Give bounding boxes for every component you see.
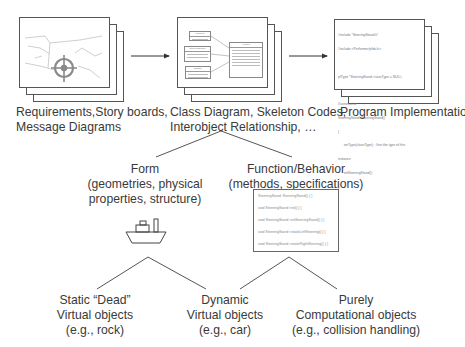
method-signature: void SteeringStand::rotateLeftSteering()… (254, 226, 338, 238)
caption-line: Program Implementation (340, 105, 465, 120)
leaf-line: Dynamic (187, 293, 263, 308)
function-title: Function/Behavior (229, 162, 364, 177)
form-title: Form (87, 162, 202, 177)
class-diagram-caption: Class Diagram, Skeleton Codes, Interobje… (170, 105, 346, 135)
caption-line: Class Diagram, Skeleton Codes, (170, 105, 346, 120)
method-signature: void SteeringStand::initSteeringStand() … (254, 214, 338, 226)
leaf-line: Static “Dead” (57, 293, 133, 308)
form-desc-line: properties, structure) (87, 192, 202, 207)
method-signature: void SteeringStand::init() { } (254, 202, 338, 214)
branch-dynamic-computational (240, 257, 337, 289)
form-node: Form (geometries, physical properties, s… (87, 162, 202, 207)
leaf-line: Virtual objects (187, 308, 263, 323)
method-signature: SteeringStand::SteeringStand() { } (254, 190, 338, 202)
storyboard-sketch-icon (20, 18, 109, 87)
method-signature: void SteeringStand::rotateRightSteering(… (254, 238, 338, 250)
branch-static-dynamic (97, 257, 206, 289)
leaf-computational-objects: Purely Computational objects (e.g., coll… (292, 293, 420, 338)
function-node: Function/Behavior (methods, specificatio… (229, 162, 364, 192)
leaf-line: (e.g., rock) (57, 323, 133, 338)
requirements-caption: Requirements,Story boards, Message Diagr… (16, 105, 168, 135)
leaf-line: Virtual objects (57, 308, 133, 323)
leaf-line: (e.g., car) (187, 323, 263, 338)
implementation-caption: Program Implementation (340, 105, 465, 120)
caption-line: Requirements,Story boards, (16, 105, 168, 120)
leaf-dynamic-objects: Dynamic Virtual objects (e.g., car) (187, 293, 263, 338)
form-desc-line: (geometries, physical (87, 177, 202, 192)
methods-listing: SteeringStand::SteeringStand() { } void … (253, 189, 339, 252)
leaf-line: Purely (292, 293, 420, 308)
ship-icon (124, 218, 168, 246)
class-diagram-thumbnail: Camera SteeringStand Engine Vehicle (177, 17, 268, 88)
storyboard-thumbnail (19, 17, 110, 88)
source-code-thumbnail: #include "SteeringStand.h" #include <Per… (334, 19, 425, 90)
leaf-line: (e.g., collision handling) (292, 323, 420, 338)
caption-line: Message Diagrams (16, 120, 168, 135)
caption-line: Interobject Relationship, … (170, 120, 346, 135)
leaf-line: Computational objects (292, 308, 420, 323)
leaf-static-objects: Static “Dead” Virtual objects (e.g., roc… (57, 293, 133, 338)
steering-wheel-icon (51, 55, 77, 82)
uml-associations (178, 18, 267, 87)
